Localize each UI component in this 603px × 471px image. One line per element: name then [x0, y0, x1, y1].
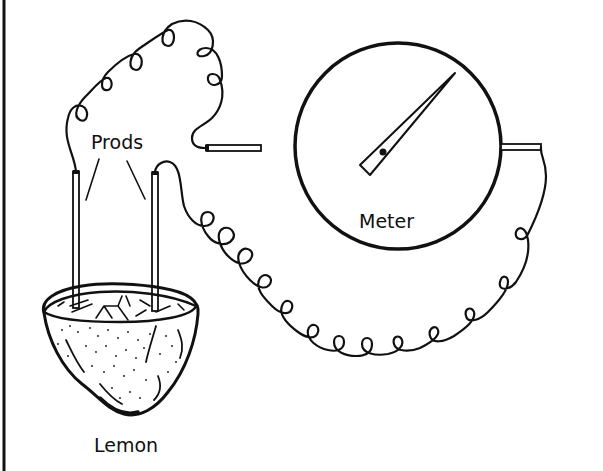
wire-bottom-coiled: [155, 147, 546, 356]
lemon-illustration: [43, 284, 198, 415]
prod-right: [152, 171, 159, 311]
meter-label: Meter: [359, 212, 414, 231]
diagram-canvas: [0, 0, 603, 471]
meter-right-terminal: [501, 144, 541, 150]
wire-top-coiled: [66, 21, 222, 172]
lemon-peel-dots: [57, 325, 177, 399]
prods-leader-right: [127, 161, 145, 199]
lemon-label: Lemon: [94, 436, 158, 455]
prods-label: Prods: [91, 133, 143, 152]
lemon-battery-diagram: Prods Meter Lemon: [0, 0, 603, 471]
needle-pivot-dot: [380, 149, 387, 156]
prods-leader-left: [86, 159, 99, 200]
meter-left-terminal: [205, 145, 261, 152]
meter-needle: [360, 73, 455, 175]
